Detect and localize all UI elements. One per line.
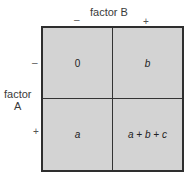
- factor-a-label: factor A: [4, 88, 32, 112]
- factorial-grid: 0 b a a + b + c: [41, 26, 184, 172]
- cell-a-minus-b-minus: 0: [43, 28, 112, 98]
- factor-b-label: factor B: [90, 6, 128, 18]
- factor-a-label-line2: A: [4, 100, 32, 112]
- factor-a-plus-level: +: [33, 126, 39, 137]
- cell-a-minus-b-plus: b: [113, 28, 182, 98]
- cell-a-plus-b-minus: a: [43, 99, 112, 169]
- cell-a-plus-b-plus: a + b + c: [113, 99, 182, 169]
- factor-a-minus-level: –: [32, 57, 38, 68]
- factor-a-label-line1: factor: [4, 88, 32, 100]
- factor-b-minus-level: –: [74, 14, 80, 25]
